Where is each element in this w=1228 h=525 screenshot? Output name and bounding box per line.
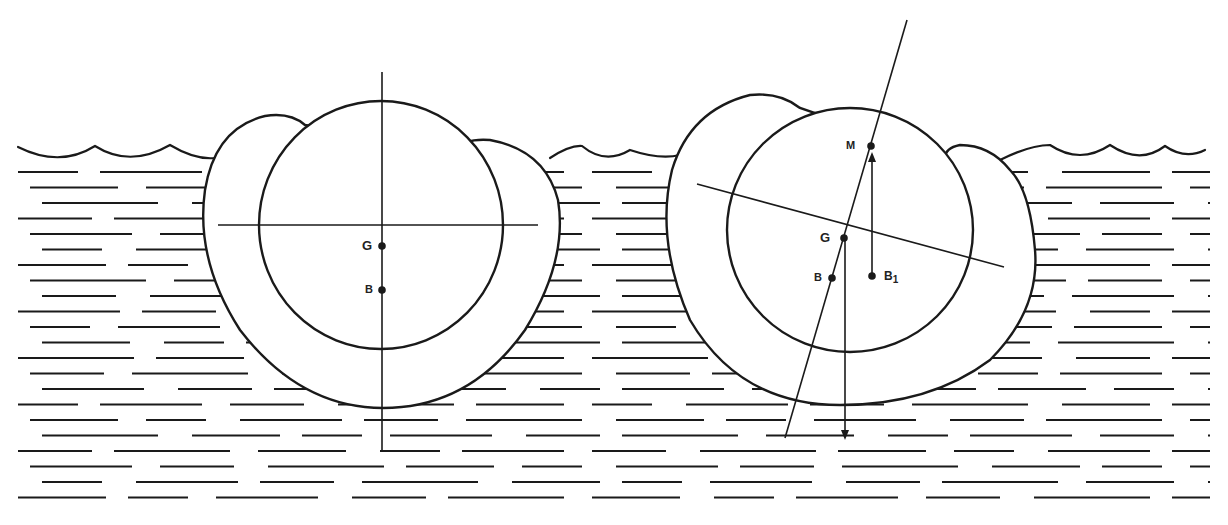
diagram-canvas	[0, 0, 1228, 525]
b1-base: B	[884, 269, 893, 283]
left-label-g: G	[362, 239, 372, 252]
right-label-b1: B1	[884, 270, 898, 285]
left-point-g	[378, 242, 386, 250]
left-label-b: B	[365, 284, 373, 295]
water-surface	[18, 145, 1205, 160]
right-label-m: M	[846, 140, 855, 151]
right-label-g: G	[820, 231, 830, 244]
right-point-g	[840, 234, 848, 242]
b1-subscript: 1	[893, 274, 899, 285]
left-point-b	[378, 286, 386, 294]
right-point-b	[828, 274, 836, 282]
right-point-m	[867, 142, 875, 150]
right-label-b: B	[814, 272, 822, 283]
stability-diagram: G B M G B B1	[0, 0, 1228, 525]
right-point-b1	[868, 272, 876, 280]
